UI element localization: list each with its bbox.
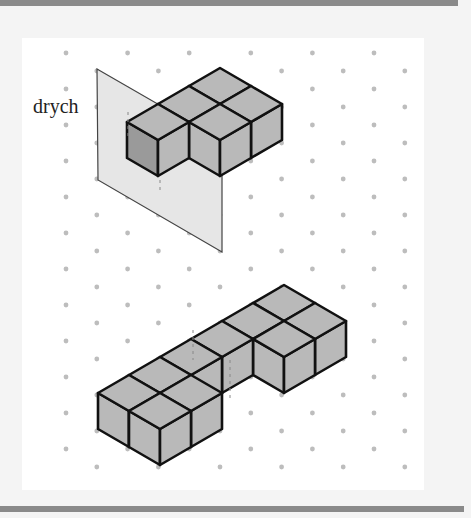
- grid-dot: [156, 321, 161, 326]
- grid-dot: [94, 249, 99, 254]
- grid-dot: [94, 357, 99, 362]
- grid-dot: [218, 465, 223, 470]
- grid-dot: [372, 411, 377, 416]
- grid-dot: [125, 51, 130, 56]
- grid-dot: [64, 303, 69, 308]
- grid-dot: [341, 69, 346, 74]
- grid-dot: [125, 267, 130, 272]
- mirror-label: drych: [33, 95, 79, 118]
- grid-dot: [310, 411, 315, 416]
- grid-dot: [372, 447, 377, 452]
- grid-dot: [94, 465, 99, 470]
- grid-dot: [279, 465, 284, 470]
- bottom-border-bar: [0, 506, 464, 512]
- grid-dot: [372, 195, 377, 200]
- grid-dot: [402, 285, 407, 290]
- grid-dot: [372, 51, 377, 56]
- grid-dot: [279, 249, 284, 254]
- grid-dot: [310, 447, 315, 452]
- grid-dot: [341, 213, 346, 218]
- grid-dot: [125, 231, 130, 236]
- grid-dot: [402, 105, 407, 110]
- grid-dot: [402, 465, 407, 470]
- grid-dot: [218, 285, 223, 290]
- grid-dot: [279, 213, 284, 218]
- grid-dot: [402, 393, 407, 398]
- grid-dot: [94, 213, 99, 218]
- grid-dot: [310, 195, 315, 200]
- isometric-figure: [0, 0, 471, 518]
- grid-dot: [341, 429, 346, 434]
- grid-dot: [372, 339, 377, 344]
- grid-dot: [125, 339, 130, 344]
- grid-dot: [248, 51, 253, 56]
- grid-dot: [341, 285, 346, 290]
- grid-dot: [64, 51, 69, 56]
- grid-dot: [279, 69, 284, 74]
- grid-dot: [248, 195, 253, 200]
- grid-dot: [372, 87, 377, 92]
- grid-dot: [310, 159, 315, 164]
- grid-dot: [402, 177, 407, 182]
- grid-dot: [156, 249, 161, 254]
- grid-dot: [64, 159, 69, 164]
- grid-dot: [402, 321, 407, 326]
- grid-dot: [248, 231, 253, 236]
- grid-dot: [64, 339, 69, 344]
- grid-dot: [402, 213, 407, 218]
- grid-dot: [94, 285, 99, 290]
- grid-dot: [64, 267, 69, 272]
- grid-dot: [187, 303, 192, 308]
- grid-dot: [341, 105, 346, 110]
- grid-dot: [372, 123, 377, 128]
- grid-dot: [310, 267, 315, 272]
- grid-dot: [402, 357, 407, 362]
- grid-dot: [372, 231, 377, 236]
- grid-dot: [94, 321, 99, 326]
- grid-dot: [402, 429, 407, 434]
- grid-dot: [64, 87, 69, 92]
- grid-dot: [64, 123, 69, 128]
- grid-dot: [341, 393, 346, 398]
- grid-dot: [402, 69, 407, 74]
- grid-dot: [248, 447, 253, 452]
- grid-dot: [156, 69, 161, 74]
- grid-dot: [64, 231, 69, 236]
- grid-dot: [64, 375, 69, 380]
- grid-dot: [125, 303, 130, 308]
- grid-dot: [341, 177, 346, 182]
- grid-dot: [372, 303, 377, 308]
- grid-dot: [310, 231, 315, 236]
- grid-dot: [310, 51, 315, 56]
- grid-dot: [187, 51, 192, 56]
- grid-dot: [279, 177, 284, 182]
- grid-dot: [156, 285, 161, 290]
- grid-dot: [64, 447, 69, 452]
- grid-dot: [279, 429, 284, 434]
- grid-dot: [187, 267, 192, 272]
- grid-dot: [372, 159, 377, 164]
- grid-dot: [248, 267, 253, 272]
- grid-dot: [341, 249, 346, 254]
- grid-dot: [341, 141, 346, 146]
- grid-dot: [402, 249, 407, 254]
- grid-dot: [402, 141, 407, 146]
- grid-dot: [248, 411, 253, 416]
- grid-dot: [372, 267, 377, 272]
- grid-dot: [341, 465, 346, 470]
- grid-dot: [64, 411, 69, 416]
- grid-dot: [310, 87, 315, 92]
- grid-dot: [64, 195, 69, 200]
- grid-dot: [310, 123, 315, 128]
- grid-dot: [372, 375, 377, 380]
